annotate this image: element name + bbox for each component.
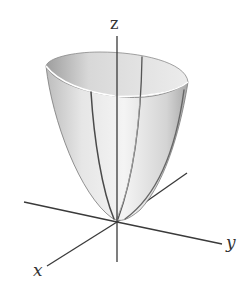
y-axis-front <box>117 222 222 244</box>
x-axis-front <box>47 222 117 266</box>
axes-front <box>47 222 222 266</box>
x-axis-label: x <box>33 262 43 279</box>
diagram-canvas <box>0 0 251 294</box>
y-axis-label: y <box>226 234 236 251</box>
z-axis-label: z <box>110 16 118 32</box>
